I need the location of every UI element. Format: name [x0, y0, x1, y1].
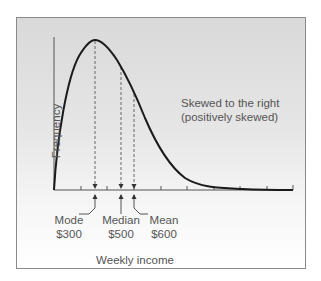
mean-label: Mean $600 [150, 214, 179, 241]
annotation-line-2: (positively skewed) [181, 111, 279, 125]
mode-label: Mode $300 [55, 214, 84, 241]
chart-frame: Frequency Skewed to the right (positivel… [16, 17, 306, 269]
axis-arrowheads [93, 184, 137, 189]
mean-pointer [134, 195, 148, 214]
pointer-arrowheads [93, 194, 137, 199]
median-label: Median $500 [102, 214, 140, 241]
central-tendency-dashed-lines [95, 41, 134, 184]
mode-value: $300 [55, 228, 84, 242]
mean-value: $600 [150, 228, 179, 242]
annotation-line-1: Skewed to the right [181, 97, 279, 111]
label-pointer-lines [79, 195, 148, 214]
x-axis-label: Weekly income [96, 254, 174, 266]
skew-annotation: Skewed to the right (positively skewed) [181, 97, 279, 124]
mean-name: Mean [150, 214, 179, 228]
mode-pointer [79, 195, 95, 214]
median-value: $500 [102, 228, 140, 242]
y-axis-label: Frequency [50, 104, 62, 158]
median-name: Median [102, 214, 140, 228]
mode-name: Mode [55, 214, 84, 228]
